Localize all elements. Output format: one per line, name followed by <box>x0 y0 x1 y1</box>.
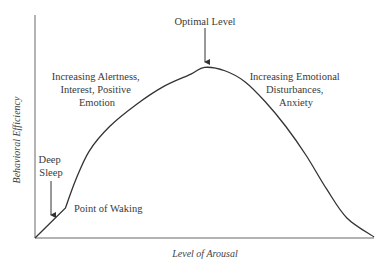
left-region-label: Increasing Alertness, Interest, Positive… <box>52 71 143 108</box>
right-region-label: Increasing Emotional Disturbances, Anxie… <box>250 71 343 108</box>
deep-sleep-label: Deep Sleep <box>39 154 64 178</box>
x-axis-label: Level of Arousal <box>171 248 238 259</box>
optimal-label: Optimal Level <box>175 16 236 27</box>
waking-label: Point of Waking <box>74 203 143 214</box>
diagram-canvas: Optimal Level Increasing Alertness, Inte… <box>0 0 389 265</box>
y-axis-label: Behavioral Efficiency <box>11 96 22 183</box>
